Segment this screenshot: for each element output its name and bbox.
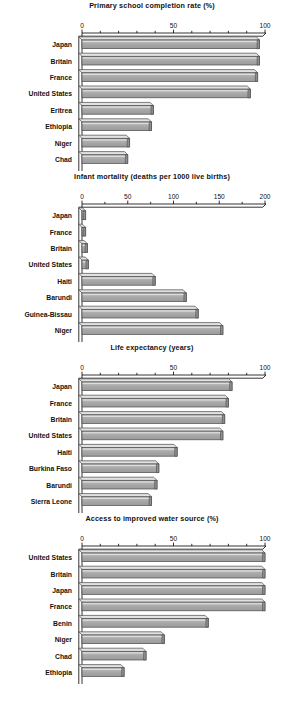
chart-title-1: Infant mortality (deaths per 1000 live b… [0, 171, 286, 182]
bar-infant-mortality-1 [79, 224, 86, 236]
bar-life-expectancy-6 [79, 477, 157, 489]
bar-access-to-improved-water-source-4 [79, 615, 208, 627]
chart-block-2: Life expectancy (years) 050100JapanFranc… [0, 342, 286, 513]
category-label: Eritrea [50, 107, 72, 114]
bar-infant-mortality-5 [79, 290, 187, 302]
bar-access-to-improved-water-source-0 [79, 550, 265, 562]
bar-primary-school-completion-rate-1 [79, 53, 260, 65]
x-tick-label: 100 [259, 364, 270, 371]
category-label: France [50, 603, 73, 610]
x-tick-label: 150 [214, 193, 225, 200]
x-tick-label: 50 [170, 22, 178, 29]
category-label: Ethiopia [45, 123, 72, 131]
category-label: Haiti [57, 449, 72, 456]
category-label: United States [29, 554, 73, 561]
plot-svg-2: 050100JapanFranceBritainUnited StatesHai… [0, 353, 286, 513]
x-tick-label: 50 [124, 193, 132, 200]
bar-access-to-improved-water-source-2 [79, 583, 265, 595]
bar-primary-school-completion-rate-3 [79, 86, 251, 98]
category-label: Britain [50, 571, 72, 578]
bar-primary-school-completion-rate-0 [79, 37, 260, 49]
bar-infant-mortality-4 [79, 273, 155, 285]
category-label: Niger [55, 140, 73, 148]
bar-infant-mortality-7 [79, 323, 223, 335]
bar-primary-school-completion-rate-7 [79, 152, 128, 164]
category-label: United States [29, 90, 73, 97]
x-tick-label: 100 [259, 535, 270, 542]
plot-svg-1: 050100150200JapanFranceBritainUnited Sta… [0, 182, 286, 342]
category-label: Britain [50, 245, 72, 252]
axes-1: 050100150200 [79, 193, 271, 343]
figure-panel: Primary school completion rate (%) 05010… [0, 0, 286, 701]
category-label: Britain [50, 416, 72, 423]
category-label: Benin [53, 620, 72, 627]
x-tick-label: 100 [259, 22, 270, 29]
x-tick-label: 200 [259, 193, 270, 200]
category-label: Niger [55, 327, 73, 335]
bar-access-to-improved-water-source-7 [79, 665, 124, 677]
bar-life-expectancy-4 [79, 444, 177, 456]
category-label: Burkina Faso [29, 465, 72, 472]
bar-infant-mortality-6 [79, 306, 198, 318]
bar-access-to-improved-water-source-3 [79, 599, 265, 611]
category-label: Japan [52, 212, 72, 220]
bar-life-expectancy-1 [79, 395, 229, 407]
x-tick-label: 50 [170, 364, 178, 371]
category-label: France [50, 229, 73, 236]
bar-life-expectancy-2 [79, 412, 225, 424]
x-tick-label: 0 [80, 364, 84, 371]
bar-access-to-improved-water-source-5 [79, 632, 165, 644]
plot-area-1: 050100150200JapanFranceBritainUnited Sta… [0, 182, 286, 342]
bar-life-expectancy-7 [79, 494, 152, 506]
bar-life-expectancy-3 [79, 428, 223, 440]
plot-svg-0: 050100JapanBritainFranceUnited StatesEri… [0, 11, 286, 171]
chart-block-1: Infant mortality (deaths per 1000 live b… [0, 171, 286, 342]
category-label: Barundi [46, 482, 72, 489]
bar-primary-school-completion-rate-4 [79, 102, 154, 114]
bar-primary-school-completion-rate-2 [79, 70, 258, 82]
category-label: Sierra Leone [31, 498, 72, 505]
plot-area-3: 050100United StatesBritainJapanFranceBen… [0, 524, 286, 684]
category-label: Chad [55, 156, 72, 163]
x-tick-label: 50 [170, 535, 178, 542]
chart-title-2: Life expectancy (years) [0, 342, 286, 353]
category-label: Chad [55, 653, 72, 660]
category-label: Haiti [57, 278, 72, 285]
bar-life-expectancy-5 [79, 461, 159, 473]
x-tick-label: 0 [80, 193, 84, 200]
plot-area-0: 050100JapanBritainFranceUnited StatesEri… [0, 11, 286, 171]
bar-access-to-improved-water-source-6 [79, 648, 146, 660]
bar-access-to-improved-water-source-1 [79, 566, 265, 578]
bar-infant-mortality-3 [79, 257, 89, 269]
chart-block-0: Primary school completion rate (%) 05010… [0, 0, 286, 171]
plot-svg-3: 050100United StatesBritainJapanFranceBen… [0, 524, 286, 684]
x-tick-label: 0 [80, 22, 84, 29]
plot-area-2: 050100JapanFranceBritainUnited StatesHai… [0, 353, 286, 513]
bar-infant-mortality-0 [79, 208, 86, 220]
category-label: France [50, 400, 73, 407]
category-label: United States [29, 261, 73, 268]
category-label: Barundi [46, 294, 72, 301]
bar-primary-school-completion-rate-5 [79, 119, 152, 131]
category-label: Guinea-Bissau [24, 311, 72, 318]
category-label: Ethiopia [45, 669, 72, 677]
category-label: Britain [50, 58, 72, 65]
bar-life-expectancy-0 [79, 379, 232, 391]
x-tick-label: 100 [168, 193, 179, 200]
category-label: Japan [52, 383, 72, 391]
category-label: Niger [55, 636, 73, 644]
category-label: United States [29, 432, 73, 439]
chart-title-3: Access to improved water source (%) [0, 513, 286, 524]
chart-block-3: Access to improved water source (%) 0501… [0, 513, 286, 684]
chart-title-0: Primary school completion rate (%) [0, 0, 286, 11]
bar-primary-school-completion-rate-6 [79, 135, 130, 147]
category-label: France [50, 74, 73, 81]
category-label: Japan [52, 41, 72, 49]
x-tick-label: 0 [80, 535, 84, 542]
category-label: Japan [52, 587, 72, 595]
bar-infant-mortality-2 [79, 241, 88, 253]
